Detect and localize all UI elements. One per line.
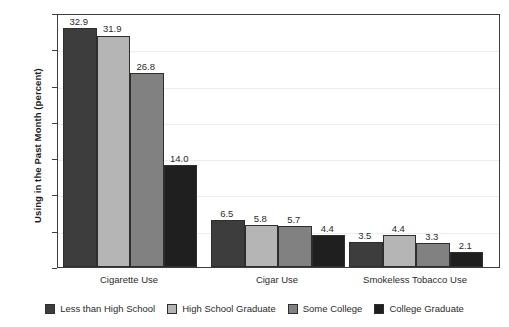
legend-swatch-icon bbox=[167, 304, 177, 314]
legend-item-2[interactable]: Some College bbox=[288, 303, 363, 314]
y-axis-tick-mark bbox=[52, 268, 57, 269]
x-axis-group-label: Smokeless Tobacco Use bbox=[308, 274, 509, 285]
bar bbox=[450, 252, 484, 267]
legend-label: Less than High School bbox=[60, 303, 155, 314]
bar-value-label: 2.1 bbox=[443, 240, 489, 251]
bar bbox=[211, 220, 245, 267]
bar bbox=[63, 28, 97, 267]
bar-value-label: 14.0 bbox=[157, 153, 203, 164]
bar-value-label: 31.9 bbox=[90, 23, 136, 34]
legend-item-0[interactable]: Less than High School bbox=[45, 303, 155, 314]
legend-swatch-icon bbox=[288, 304, 298, 314]
legend-label: High School Graduate bbox=[182, 303, 275, 314]
legend-item-3[interactable]: College Graduate bbox=[374, 303, 463, 314]
bar bbox=[312, 235, 346, 267]
legend-label: Some College bbox=[303, 303, 363, 314]
legend-label: College Graduate bbox=[389, 303, 463, 314]
legend: Less than High SchoolHigh School Graduat… bbox=[0, 303, 509, 314]
bar-chart: Using in the Past Month (percent) 051015… bbox=[0, 0, 509, 327]
bar bbox=[130, 73, 164, 267]
plot-area bbox=[57, 14, 500, 268]
bar bbox=[164, 165, 198, 267]
legend-swatch-icon bbox=[374, 304, 384, 314]
y-axis-title: Using in the Past Month (percent) bbox=[32, 26, 43, 266]
bar-value-label: 26.8 bbox=[123, 61, 169, 72]
legend-item-1[interactable]: High School Graduate bbox=[167, 303, 275, 314]
legend-swatch-icon bbox=[45, 304, 55, 314]
bar bbox=[245, 225, 279, 267]
bar bbox=[349, 242, 383, 267]
